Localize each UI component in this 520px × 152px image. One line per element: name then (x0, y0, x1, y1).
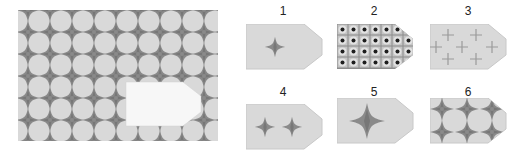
dot-grid-icon (337, 24, 415, 70)
option-4[interactable] (246, 104, 324, 150)
main-pattern-panel (18, 10, 218, 141)
option-5[interactable] (337, 98, 415, 144)
option-1[interactable] (246, 24, 324, 70)
missing-piece-cutout (126, 82, 201, 126)
option-label-2: 2 (364, 4, 384, 18)
option-3[interactable] (430, 24, 510, 70)
option-2[interactable] (337, 24, 415, 70)
option-label-1: 1 (273, 4, 293, 18)
option-label-5: 5 (364, 85, 384, 99)
option-label-4: 4 (273, 85, 293, 99)
option-6[interactable] (430, 98, 510, 144)
option-label-6: 6 (458, 85, 478, 99)
option-label-3: 3 (458, 4, 478, 18)
star-pattern-icon (18, 10, 218, 141)
